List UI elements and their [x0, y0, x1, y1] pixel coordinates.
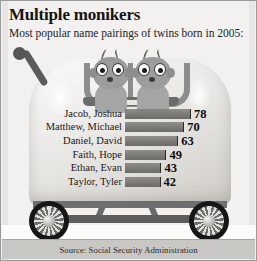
header: Multiple monikers Most popular name pair… [9, 5, 248, 40]
infographic-panel: Multiple monikers Most popular name pair… [0, 0, 257, 261]
chart-row-label: Matthew, Michael [1, 121, 125, 133]
baby-pupil [100, 68, 105, 73]
chart-row-label: Daniel, David [1, 135, 125, 147]
chart-row-label: Ethan, Evan [1, 162, 125, 174]
page-subtitle: Most popular name pairings of twins born… [9, 26, 248, 40]
chart-bar [125, 122, 184, 132]
chart-bar [125, 163, 161, 173]
chart-row: Daniel, David63 [1, 134, 257, 148]
chart-bar [125, 177, 161, 187]
page-title: Multiple monikers [9, 5, 248, 25]
baby-nose [149, 77, 155, 82]
chart-bar-value: 70 [184, 121, 200, 133]
chart-row: Faith, Hope49 [1, 148, 257, 162]
chart-bar-value: 43 [161, 162, 177, 174]
chart-bar-wrap: 70 [125, 122, 257, 133]
baby-eye-right [112, 63, 124, 76]
bar-chart: Jacob, Joshua78Matthew, Michael70Daniel,… [1, 107, 257, 189]
baby-eye-left [138, 63, 150, 76]
baby-nose [107, 77, 113, 82]
source-text: Source: Social Security Administration [59, 245, 197, 255]
chart-bar-value: 42 [161, 176, 177, 188]
chart-bar-value: 78 [191, 108, 207, 120]
baby-pupil [158, 68, 163, 73]
chart-row-label: Faith, Hope [1, 149, 125, 161]
baby-pupil [116, 68, 121, 73]
chart-bar [125, 136, 178, 146]
chart-bar-wrap: 42 [125, 176, 257, 187]
wheel-hub [203, 215, 215, 227]
chart-bar-wrap: 43 [125, 163, 257, 174]
chart-row: Jacob, Joshua78 [1, 107, 257, 121]
baby-eye-left [96, 63, 108, 76]
chart-bar-wrap: 49 [125, 149, 257, 160]
chart-row: Ethan, Evan43 [1, 161, 257, 175]
chart-row: Matthew, Michael70 [1, 121, 257, 135]
chart-bar-value: 49 [166, 149, 182, 161]
chart-bar-wrap: 63 [125, 135, 257, 146]
baby-pupil [142, 68, 147, 73]
stroller-handle-grip [13, 47, 26, 60]
wheel-hub [43, 215, 55, 227]
chart-bar [125, 109, 191, 119]
wheel-left [29, 201, 69, 241]
chart-row-label: Taylor, Tyler [1, 176, 125, 188]
chart-row-label: Jacob, Joshua [1, 108, 125, 120]
baby-eye-right [154, 63, 166, 76]
baby-ear-right [166, 68, 175, 78]
chart-bar-wrap: 78 [125, 108, 257, 119]
source-band: Source: Social Security Administration [2, 239, 255, 259]
wheel-right [189, 201, 229, 241]
chart-bar [125, 150, 166, 160]
chart-row: Taylor, Tyler42 [1, 175, 257, 189]
chart-bar-value: 63 [178, 135, 194, 147]
